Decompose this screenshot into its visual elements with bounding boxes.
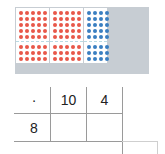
dot xyxy=(99,11,103,15)
dot xyxy=(53,51,57,55)
dot xyxy=(19,23,23,27)
dot xyxy=(87,29,91,33)
dot xyxy=(99,35,103,39)
dot xyxy=(99,57,103,61)
dot xyxy=(93,11,97,15)
dot xyxy=(65,17,69,21)
row-separator xyxy=(16,41,49,42)
dot xyxy=(25,29,29,33)
dot xyxy=(59,29,63,33)
row-header: 8 xyxy=(18,115,50,141)
dot xyxy=(53,29,57,33)
dot xyxy=(31,11,35,15)
dot xyxy=(105,11,109,15)
dot xyxy=(77,29,81,33)
dot xyxy=(53,23,57,27)
dot xyxy=(105,17,109,21)
dot xyxy=(59,11,63,15)
dot xyxy=(99,17,103,21)
dot xyxy=(53,45,57,49)
dot xyxy=(31,23,35,27)
dot xyxy=(43,35,47,39)
dot xyxy=(105,45,109,49)
dot xyxy=(37,57,41,61)
dot xyxy=(71,17,75,21)
dot xyxy=(25,45,29,49)
dot xyxy=(19,29,23,33)
dot xyxy=(93,23,97,27)
dot xyxy=(105,57,109,61)
dot xyxy=(77,51,81,55)
column-header-ones: 4 xyxy=(87,87,122,113)
dot xyxy=(19,57,23,61)
dot xyxy=(77,57,81,61)
dot xyxy=(65,35,69,39)
dot-panel-ones xyxy=(84,8,107,63)
dot xyxy=(53,11,57,15)
dot xyxy=(65,45,69,49)
dot xyxy=(25,51,29,55)
dot xyxy=(99,23,103,27)
dot xyxy=(93,51,97,55)
dot xyxy=(37,45,41,49)
dot xyxy=(31,45,35,49)
dot xyxy=(25,11,29,15)
dot xyxy=(25,57,29,61)
dot xyxy=(105,35,109,39)
dot xyxy=(77,11,81,15)
dot xyxy=(43,45,47,49)
dot xyxy=(43,29,47,33)
dot xyxy=(31,17,35,21)
column-header-tens: 10 xyxy=(51,87,86,113)
dot xyxy=(37,23,41,27)
dot xyxy=(19,35,23,39)
dot xyxy=(105,23,109,27)
dot xyxy=(77,35,81,39)
dot xyxy=(65,57,69,61)
product-cell-ones[interactable] xyxy=(87,114,122,141)
dot xyxy=(25,35,29,39)
grid-line xyxy=(157,141,158,154)
dot xyxy=(65,11,69,15)
dot xyxy=(71,51,75,55)
dot xyxy=(43,51,47,55)
dot xyxy=(93,29,97,33)
dot xyxy=(105,29,109,33)
dot xyxy=(93,17,97,21)
grid-line xyxy=(50,87,51,141)
product-cell-tens[interactable] xyxy=(51,114,86,141)
dot xyxy=(31,29,35,33)
row-separator xyxy=(84,41,107,42)
row-separator xyxy=(50,41,83,42)
dot xyxy=(71,57,75,61)
dot xyxy=(25,17,29,21)
operator-cell: · xyxy=(18,87,50,113)
dot xyxy=(19,17,23,21)
dot xyxy=(99,45,103,49)
dot xyxy=(65,51,69,55)
dot xyxy=(93,35,97,39)
dot xyxy=(19,51,23,55)
grid-line xyxy=(122,87,123,154)
dot xyxy=(77,17,81,21)
dot xyxy=(71,29,75,33)
dot xyxy=(71,35,75,39)
dot-panel-tens-b xyxy=(50,8,83,63)
dot xyxy=(53,17,57,21)
dot xyxy=(93,45,97,49)
dot xyxy=(59,45,63,49)
dot xyxy=(59,35,63,39)
dot xyxy=(37,11,41,15)
dot xyxy=(37,51,41,55)
dot xyxy=(99,29,103,33)
dot xyxy=(43,57,47,61)
dot xyxy=(87,11,91,15)
dot xyxy=(71,11,75,15)
dot xyxy=(19,11,23,15)
dot xyxy=(87,23,91,27)
dot xyxy=(31,35,35,39)
dot xyxy=(37,29,41,33)
dot xyxy=(43,17,47,21)
dot xyxy=(77,23,81,27)
dot xyxy=(59,23,63,27)
